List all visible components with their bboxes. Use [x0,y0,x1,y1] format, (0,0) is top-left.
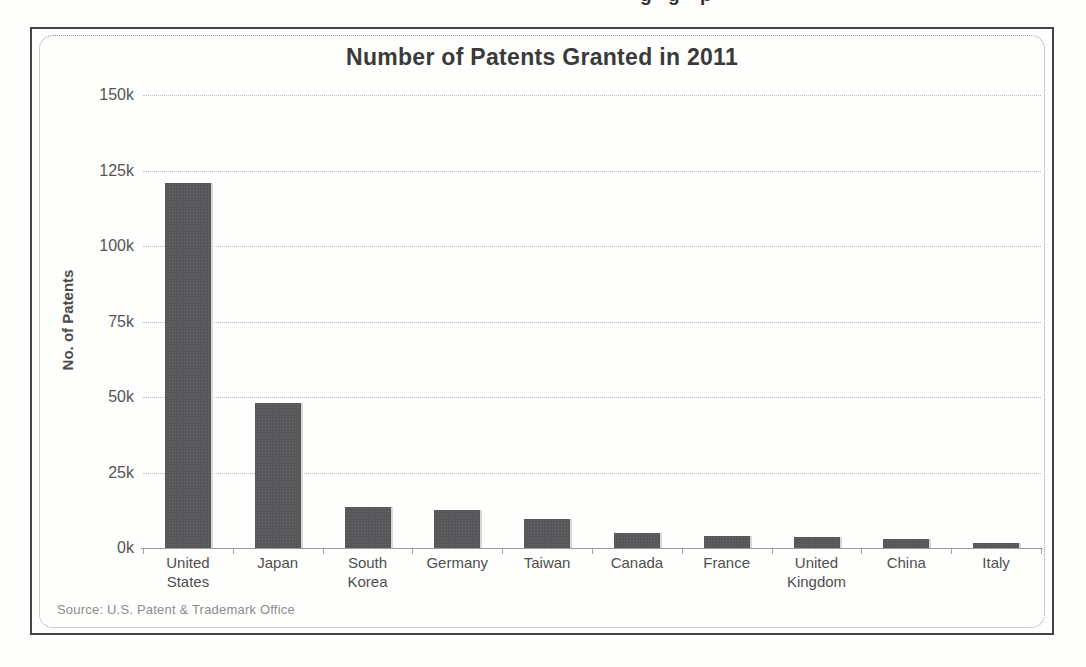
bar-japan [255,403,303,548]
x-label-united-kingdom: United Kingdom [772,553,862,591]
cropped-glyph: g [640,0,652,4]
chart-title: Number of Patents Granted in 2011 [39,44,1045,71]
bar-united-states [165,183,213,548]
cropped-glyph: g [668,0,680,4]
bar-canada [614,533,662,548]
x-label-china: China [861,553,951,572]
x-label-germany: Germany [412,553,502,572]
bar-taiwan [524,519,572,548]
gridline-125k [143,171,1041,172]
bar-united-kingdom [794,537,842,548]
gridline-100k [143,246,1041,247]
x-label-united-states: United States [143,553,233,591]
y-axis-title: No. of Patents [58,220,78,420]
x-label-taiwan: Taiwan [502,553,592,572]
bar-italy [973,543,1021,548]
gridline-50k [143,397,1041,398]
cropped-glyph: p [700,0,712,4]
bar-china [883,539,931,548]
x-label-south-korea: South Korea [323,553,413,591]
bar-germany [434,510,482,548]
x-label-france: France [682,553,772,572]
cropped-text-fragment: ggp [0,0,1086,5]
y-tick-label-125k: 125k [59,162,134,180]
gridline-150k [143,95,1041,96]
bar-south-korea [345,507,393,548]
scanned-chart-page: ggp Number of Patents Granted in 2011 0k… [0,0,1086,667]
x-label-japan: Japan [233,553,323,572]
source-note: Source: U.S. Patent & Trademark Office [57,602,295,617]
y-tick-label-25k: 25k [59,464,134,482]
bar-france [704,536,752,548]
x-label-canada: Canada [592,553,682,572]
x-label-italy: Italy [951,553,1041,572]
gridline-75k [143,322,1041,323]
y-tick-label-0k: 0k [59,539,134,557]
x-axis-tick [1041,549,1042,554]
y-tick-label-150k: 150k [59,86,134,104]
